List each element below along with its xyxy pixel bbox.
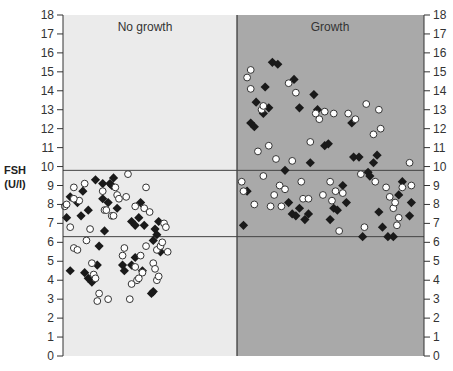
data-point-circle	[392, 199, 399, 206]
data-point-circle	[146, 209, 153, 216]
tick-label: 7	[47, 216, 54, 230]
tick-label: 5	[47, 254, 54, 268]
data-point-circle	[67, 224, 74, 231]
data-point-circle	[105, 296, 112, 303]
y-axis-label-line2: (U/l)	[4, 178, 26, 190]
tick-label: 9	[47, 179, 54, 193]
data-point-circle	[383, 184, 390, 191]
tick-label: 1	[433, 330, 440, 344]
data-point-circle	[119, 252, 126, 259]
data-point-circle	[260, 103, 267, 110]
data-point-circle	[339, 190, 346, 197]
tick-label: 6	[47, 235, 54, 249]
tick-label: 4	[433, 273, 440, 287]
data-point-circle	[132, 264, 139, 271]
data-point-circle	[336, 228, 343, 235]
tick-label: 14	[41, 84, 55, 98]
tick-label: 15	[433, 65, 447, 79]
tick-label: 12	[41, 122, 55, 136]
data-point-circle	[164, 248, 171, 255]
panel-bg	[63, 15, 237, 356]
data-point-circle	[143, 243, 150, 250]
data-point-circle	[352, 116, 359, 123]
tick-label: 15	[41, 65, 55, 79]
tick-label: 12	[433, 122, 447, 136]
tick-label: 0	[433, 349, 440, 363]
data-point-circle	[112, 184, 119, 191]
data-point-circle	[375, 106, 382, 113]
data-point-circle	[137, 252, 144, 259]
data-point-circle	[271, 192, 278, 199]
data-point-circle	[159, 239, 166, 246]
tick-label: 10	[41, 160, 55, 174]
tick-label: 14	[433, 84, 447, 98]
data-point-circle	[162, 224, 169, 231]
data-point-circle	[110, 212, 117, 219]
data-point-circle	[289, 157, 296, 164]
data-point-circle	[345, 110, 352, 117]
tick-label: 16	[433, 46, 447, 60]
data-point-circle	[143, 184, 150, 191]
tick-label: 9	[433, 179, 440, 193]
data-point-circle	[155, 273, 162, 280]
tick-label: 3	[433, 292, 440, 306]
data-point-circle	[247, 85, 254, 92]
data-point-circle	[305, 195, 312, 202]
tick-label: 2	[47, 311, 54, 325]
tick-label: 3	[47, 292, 54, 306]
data-point-circle	[327, 178, 334, 185]
data-point-circle	[298, 178, 305, 185]
data-point-circle	[357, 171, 364, 178]
data-point-circle	[399, 184, 406, 191]
data-point-circle	[332, 188, 339, 195]
tick-label: 7	[433, 216, 440, 230]
data-point-circle	[63, 201, 70, 208]
tick-label: 13	[41, 103, 55, 117]
data-point-circle	[273, 156, 280, 163]
panel-label-growth: Growth	[311, 20, 350, 34]
data-point-circle	[386, 193, 393, 200]
data-point-circle	[121, 245, 128, 252]
data-point-circle	[361, 224, 368, 231]
data-point-circle	[278, 203, 285, 210]
y-axis-left: 0123456789101112131415161718	[41, 8, 63, 363]
data-point-circle	[292, 89, 299, 96]
data-point-circle	[74, 247, 81, 254]
data-point-circle	[408, 182, 415, 189]
data-point-circle	[240, 188, 247, 195]
y-axis-right: 0123456789101112131415161718	[424, 8, 447, 363]
data-point-circle	[363, 101, 370, 108]
tick-label: 16	[41, 46, 55, 60]
data-point-circle	[99, 188, 106, 195]
tick-label: 8	[433, 197, 440, 211]
data-point-circle	[370, 131, 377, 138]
data-point-circle	[395, 214, 402, 221]
tick-label: 17	[433, 27, 447, 41]
tick-label: 4	[47, 273, 54, 287]
data-point-circle	[244, 74, 251, 81]
data-point-circle	[81, 180, 88, 187]
data-point-circle	[267, 203, 274, 210]
data-point-circle	[307, 139, 314, 146]
tick-label: 11	[42, 141, 55, 155]
tick-label: 13	[433, 103, 447, 117]
data-point-circle	[329, 197, 336, 204]
data-point-circle	[282, 186, 289, 193]
tick-label: 18	[41, 8, 55, 22]
fsh-scatter-chart: 0123456789101112131415161718 01234567891…	[0, 0, 453, 371]
tick-label: 10	[433, 160, 447, 174]
data-point-circle	[152, 265, 159, 272]
data-point-circle	[285, 80, 292, 87]
tick-label: 5	[433, 254, 440, 268]
data-point-circle	[88, 260, 95, 267]
data-point-circle	[330, 110, 337, 117]
data-point-circle	[125, 171, 132, 178]
data-point-circle	[238, 178, 245, 185]
data-point-circle	[70, 195, 77, 202]
data-point-circle	[247, 67, 254, 74]
data-point-circle	[321, 108, 328, 115]
data-point-circle	[372, 178, 379, 185]
data-point-circle	[320, 192, 327, 199]
data-point-circle	[316, 116, 323, 123]
data-point-circle	[265, 142, 272, 149]
